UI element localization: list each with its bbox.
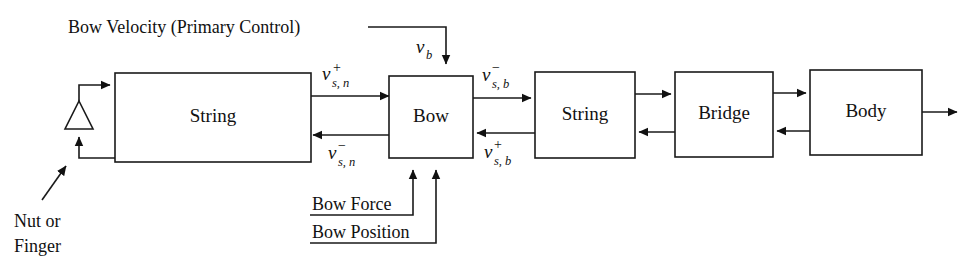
bow-force-label: Bow Force xyxy=(312,194,392,214)
block-body-label: Body xyxy=(845,100,887,121)
signal-v-s-n-plus-superscript: + xyxy=(333,60,341,75)
block-string-left: String xyxy=(115,73,311,162)
signal-v-s-n-minus-superscript: − xyxy=(338,138,346,153)
signal-label-v-s-b-plus: v + s, b xyxy=(484,137,511,168)
bow-position-label: Bow Position xyxy=(312,222,410,242)
signal-label-v-s-n-plus: v + s, n xyxy=(322,60,349,90)
signal-v-s-b-plus-base: v xyxy=(484,141,493,162)
nut-or-finger-label-line1: Nut or xyxy=(14,211,61,231)
signal-v-s-n-minus-base: v xyxy=(328,142,337,163)
block-bow: Bow xyxy=(389,76,473,158)
bow-velocity-annotation-label: Bow Velocity (Primary Control) xyxy=(68,17,300,38)
block-string-left-label: String xyxy=(190,105,237,126)
signal-label-v-s-b-minus: v − s, b xyxy=(482,60,509,91)
block-bridge-label: Bridge xyxy=(698,102,750,123)
signal-label-v-b: v b xyxy=(416,36,432,62)
signal-v-s-n-minus-subscript: s, n xyxy=(338,155,355,169)
bow-velocity-lead-wire xyxy=(368,27,446,64)
signal-v-s-b-minus-superscript: − xyxy=(492,60,500,75)
signal-v-s-n-plus-base: v xyxy=(322,63,331,84)
signal-label-v-s-n-minus: v − s, n xyxy=(328,138,355,169)
block-bridge: Bridge xyxy=(675,72,773,157)
block-string-right-label: String xyxy=(562,103,609,124)
nut-or-finger-pointer-arrow xyxy=(42,166,66,200)
block-string-right: String xyxy=(535,72,635,158)
nut-reflection-triangle xyxy=(65,101,93,129)
block-bow-label: Bow xyxy=(413,105,449,126)
signal-v-b-base: v xyxy=(416,36,425,57)
block-body: Body xyxy=(810,70,922,155)
nut-or-finger-label-line2: Finger xyxy=(14,236,61,256)
signal-v-s-n-plus-subscript: s, n xyxy=(332,76,349,90)
signal-v-s-b-minus-base: v xyxy=(482,64,491,85)
signal-v-s-b-plus-superscript: + xyxy=(494,137,502,152)
signal-v-b-subscript: b xyxy=(426,48,432,62)
signal-v-s-b-minus-subscript: s, b xyxy=(492,77,509,91)
bowed-string-block-diagram: String Bow String xyxy=(0,0,968,268)
diagram-canvas: String Bow String xyxy=(0,0,968,268)
signal-v-s-b-plus-subscript: s, b xyxy=(494,154,511,168)
